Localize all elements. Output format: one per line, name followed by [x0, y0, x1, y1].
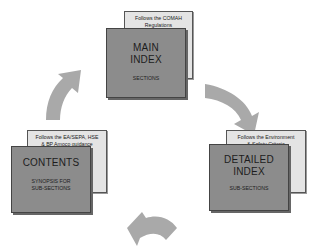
contents-card: CONTENTS SYNOPSIS FOR SUB-SECTIONS — [11, 146, 91, 213]
contents-subtitle-line2: SUB-SECTIONS — [12, 185, 90, 192]
main-index-title-line2: INDEX — [107, 54, 185, 66]
contents-subtitle-line1: SYNOPSIS FOR — [12, 178, 90, 185]
detailed-index-title-line1: DETAILED — [210, 154, 288, 166]
contents-note-line1: Follows the EA/SEPA, HSE — [28, 134, 106, 141]
main-index-subtitle: SECTIONS — [107, 75, 185, 82]
curved-arrow-icon — [46, 70, 81, 120]
main-index-note-line1: Follows the COMAH — [125, 15, 192, 22]
main-index-title-line1: MAIN — [107, 42, 185, 54]
contents-title: CONTENTS — [12, 157, 90, 169]
detailed-index-note-line1: Follows the Environment — [227, 134, 305, 141]
detailed-index-title-line2: INDEX — [210, 166, 288, 178]
main-index-card: MAIN INDEX SECTIONS — [106, 28, 186, 98]
detailed-index-card: DETAILED INDEX SUB-SECTIONS — [209, 144, 289, 211]
curved-arrow-icon — [205, 84, 259, 135]
detailed-index-subtitle: SUB-SECTIONS — [210, 185, 288, 192]
curved-arrow-icon — [127, 212, 177, 246]
